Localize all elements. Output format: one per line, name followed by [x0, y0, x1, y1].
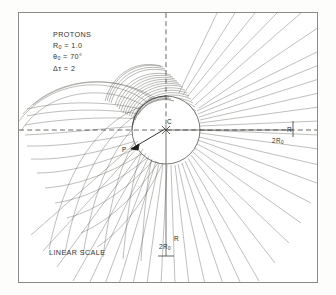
figure-root: PROTONS R0 = 1.0 θ0 = 70° Δτ = 2 LINEAR …	[0, 0, 336, 295]
param-eq-dtau: =	[64, 64, 69, 73]
param-symbol-theta0: θ0	[53, 52, 61, 61]
source-point-label: P	[122, 146, 127, 153]
radius-label-right: R	[287, 126, 292, 133]
species-label: PROTONS	[53, 30, 91, 41]
param-eq-theta0: =	[63, 52, 68, 61]
axis-tick-label-bottom: 2R0	[159, 243, 171, 251]
axis-tick-label-right: 2R0	[272, 137, 284, 145]
plot-frame: PROTONS R0 = 1.0 θ0 = 70° Δτ = 2 LINEAR …	[18, 12, 318, 283]
param-symbol-dtau: Δτ	[53, 64, 61, 73]
param-value-theta0: 70°	[70, 52, 82, 61]
param-value-r0: 1.0	[71, 41, 82, 50]
tick-bottom-sub: 0	[168, 246, 171, 251]
param-symbol-r0: R0	[53, 41, 62, 50]
param-row-dtau: Δτ = 2	[53, 64, 91, 75]
linear-scale-label: LINEAR SCALE	[49, 248, 105, 257]
center-point-label: C	[167, 118, 172, 125]
tick-right-text: 2R	[272, 137, 281, 144]
tick-right-sub: 0	[281, 140, 284, 145]
parameter-block: PROTONS R0 = 1.0 θ0 = 70° Δτ = 2	[53, 30, 91, 74]
param-row-r0: R0 = 1.0	[53, 41, 91, 53]
param-row-theta0: θ0 = 70°	[53, 52, 91, 64]
tick-bottom-text: 2R	[159, 243, 168, 250]
param-value-dtau: 2	[71, 64, 75, 73]
radius-label-bottom: R	[174, 235, 179, 242]
param-eq-r0: =	[64, 41, 69, 50]
